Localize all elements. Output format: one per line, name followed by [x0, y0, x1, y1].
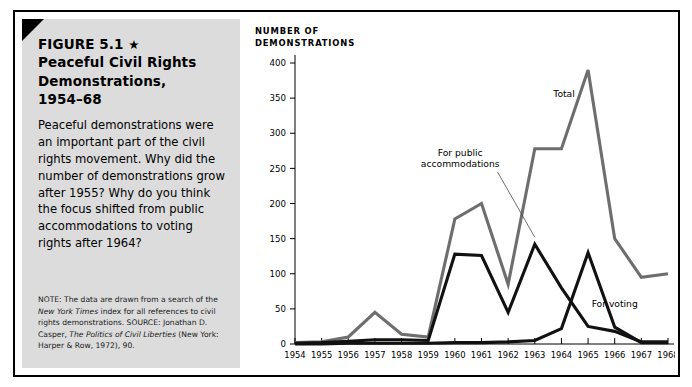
y-tick-label: 100 — [270, 269, 286, 279]
note-text-1: The data are drawn from a search of the — [62, 295, 218, 304]
series-label-for-voting: For voting — [592, 298, 638, 309]
caption-inner: FIGURE 5.1 ★ Peaceful Civil Rights Demon… — [38, 35, 226, 252]
figure-title: FIGURE 5.1 ★ Peaceful Civil Rights Demon… — [38, 35, 226, 108]
figure-note-block: NOTE: The data are drawn from a search o… — [38, 294, 228, 352]
x-tick-label: 1963 — [524, 350, 545, 360]
x-tick-label: 1967 — [631, 350, 652, 360]
x-tick-label: 1962 — [497, 350, 518, 360]
source-italic-title: The Politics of Civil Liberties — [69, 330, 176, 339]
figure-title-line3: Demonstrations, — [38, 73, 166, 89]
x-tick-label: 1956 — [338, 350, 359, 360]
chart-panel: NUMBER OF DEMONSTRATIONS 050100150200250… — [250, 19, 675, 368]
series-labels: TotalFor publicaccommodationsFor voting — [421, 88, 638, 310]
star-icon: ★ — [128, 37, 139, 52]
x-tick-label: 1961 — [471, 350, 492, 360]
figure-title-line4: 1954–68 — [38, 91, 102, 107]
y-tick-label: 200 — [270, 199, 286, 209]
note-label: NOTE: — [38, 295, 62, 304]
x-tick-label: 1959 — [418, 350, 439, 360]
note-italic-nyt: New York Times — [38, 307, 98, 316]
x-tick-label: 1965 — [577, 350, 598, 360]
y-tick-label: 150 — [270, 234, 286, 244]
y-axis-ticks: 050100150200250300350400 — [270, 58, 295, 349]
line-chart: 050100150200250300350400 195419551956195… — [250, 19, 675, 368]
y-tick-label: 0 — [281, 339, 286, 349]
source-label: SOURCE: — [127, 318, 161, 327]
x-tick-label: 1958 — [391, 350, 412, 360]
x-tick-label: 1966 — [604, 350, 625, 360]
y-tick-label: 50 — [275, 304, 286, 314]
x-tick-label: 1955 — [311, 350, 332, 360]
series-line-for-public-accommodations — [295, 244, 668, 343]
figure-title-line2: Peaceful Civil Rights — [38, 54, 196, 70]
x-tick-label: 1960 — [444, 350, 465, 360]
x-tick-label: 1968 — [657, 350, 675, 360]
y-tick-label: 300 — [270, 128, 286, 138]
x-tick-label: 1954 — [284, 350, 305, 360]
series-label-total: Total — [552, 88, 574, 99]
x-tick-label: 1957 — [364, 350, 385, 360]
y-tick-label: 250 — [270, 164, 286, 174]
figure-number: FIGURE 5.1 — [38, 36, 124, 52]
x-tick-label: 1964 — [551, 350, 572, 360]
y-tick-label: 400 — [270, 58, 286, 68]
figure-body-text: Peaceful demonstrations were an importan… — [38, 117, 226, 251]
series-label-for-public-accommodations: For publicaccommodations — [421, 147, 500, 170]
figure-root: FIGURE 5.1 ★ Peaceful Civil Rights Demon… — [0, 0, 692, 387]
y-tick-label: 350 — [270, 93, 286, 103]
